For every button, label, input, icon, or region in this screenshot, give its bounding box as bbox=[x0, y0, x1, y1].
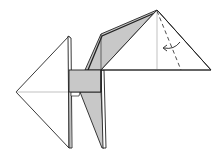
center-gray-band bbox=[69, 70, 101, 92]
left-triangle-flap bbox=[16, 36, 69, 148]
diagram-svg bbox=[0, 0, 223, 155]
band-underside bbox=[71, 92, 80, 96]
origami-diagram bbox=[0, 0, 223, 155]
